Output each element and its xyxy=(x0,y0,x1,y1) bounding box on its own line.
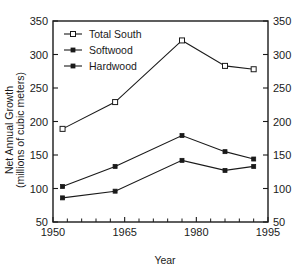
y-tick-label-left: 350 xyxy=(30,15,48,27)
data-point-hardwood xyxy=(61,196,65,200)
x-tick-label: 1995 xyxy=(256,226,280,238)
y-tick-label-right: 250 xyxy=(273,82,291,94)
legend-label-softwood: Softwood xyxy=(89,44,133,56)
y-tick-label-left: 200 xyxy=(30,116,48,128)
data-point-total-south xyxy=(113,100,118,105)
y-axis-title-line2: (millions of cubic meters) xyxy=(14,72,26,188)
line-chart: 50100150200250300350 5010015020025030035… xyxy=(0,0,297,271)
data-point-total-south xyxy=(180,38,185,43)
data-point-softwood xyxy=(223,150,227,154)
legend-marker-total-south xyxy=(71,32,76,37)
y-tick-label-right: 200 xyxy=(273,116,291,128)
x-tick-label: 1980 xyxy=(184,226,208,238)
data-point-total-south xyxy=(60,126,65,131)
data-point-hardwood xyxy=(252,164,256,168)
y-tick-label-right: 350 xyxy=(273,15,291,27)
y-tick-label-left: 300 xyxy=(30,49,48,61)
data-point-softwood xyxy=(113,164,117,168)
data-point-softwood xyxy=(61,184,65,188)
data-point-total-south xyxy=(223,63,228,68)
x-tick-label: 1965 xyxy=(112,226,136,238)
x-axis-title: Year xyxy=(154,254,176,266)
data-point-hardwood xyxy=(113,189,117,193)
legend-marker-hardwood xyxy=(71,64,75,68)
y-tick-label-right: 150 xyxy=(273,149,291,161)
data-point-softwood xyxy=(252,157,256,161)
y-tick-label-left: 250 xyxy=(30,82,48,94)
data-point-hardwood xyxy=(223,168,227,172)
data-point-softwood xyxy=(180,134,184,138)
legend-label-total-south: Total South xyxy=(89,28,142,40)
data-point-hardwood xyxy=(180,158,184,162)
y-tick-label-right: 300 xyxy=(273,49,291,61)
x-tick-label: 1950 xyxy=(41,226,65,238)
y-tick-label-right: 100 xyxy=(273,183,291,195)
legend-marker-softwood xyxy=(71,48,75,52)
data-point-total-south xyxy=(251,67,256,72)
legend-label-hardwood: Hardwood xyxy=(89,60,137,72)
y-tick-label-left: 150 xyxy=(30,149,48,161)
y-tick-label-left: 100 xyxy=(30,183,48,195)
chart-container: 50100150200250300350 5010015020025030035… xyxy=(0,0,297,271)
